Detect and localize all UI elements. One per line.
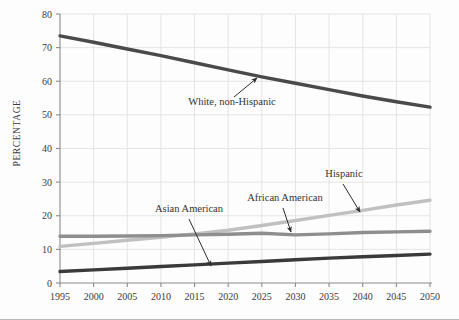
series-line: [60, 231, 430, 236]
chart-container: PERCENTAGE 01020304050607080 19952000200…: [0, 0, 459, 320]
series-line: [60, 200, 430, 246]
y-tick-label: 30: [42, 177, 52, 188]
line-chart-plot: 01020304050607080 1995200020052010201520…: [0, 0, 459, 320]
x-tick-label: 2040: [353, 291, 373, 302]
annotation-label: Hispanic: [325, 168, 363, 179]
x-tick-label: 2010: [151, 291, 171, 302]
x-tick-label: 2020: [218, 291, 238, 302]
y-tick-label: 0: [47, 278, 52, 289]
series-line: [60, 254, 430, 271]
series-annotations: White, non-HispanicAsian AmericanAfrican…: [155, 78, 363, 266]
y-tick-label: 70: [42, 42, 52, 53]
annotation-label: Asian American: [155, 203, 224, 214]
axis-ticks: [56, 14, 430, 287]
x-tick-label: 2000: [84, 291, 104, 302]
y-tick-label: 40: [42, 143, 52, 154]
y-tick-label: 80: [42, 9, 52, 20]
x-tick-label: 2015: [185, 291, 205, 302]
annotation-arrow: [189, 219, 211, 266]
annotation-arrow: [343, 184, 360, 212]
x-tick-label: 2050: [420, 291, 440, 302]
y-tick-labels: 01020304050607080: [42, 9, 52, 289]
annotation-label: African American: [247, 192, 323, 203]
y-tick-label: 50: [42, 109, 52, 120]
x-tick-labels: 1995200020052010201520202025203020352040…: [50, 291, 440, 302]
x-tick-label: 1995: [50, 291, 70, 302]
y-tick-label: 20: [42, 210, 52, 221]
annotation-label: White, non-Hispanic: [188, 96, 276, 107]
x-tick-label: 2035: [319, 291, 339, 302]
y-tick-label: 60: [42, 76, 52, 87]
x-tick-label: 2025: [252, 291, 272, 302]
x-tick-label: 2030: [285, 291, 305, 302]
series-lines: [60, 36, 430, 272]
x-tick-label: 2005: [117, 291, 137, 302]
y-tick-label: 10: [42, 244, 52, 255]
x-tick-label: 2045: [386, 291, 406, 302]
